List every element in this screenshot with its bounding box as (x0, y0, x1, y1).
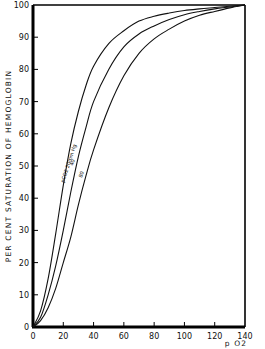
y-tick-label: 60 (19, 130, 29, 139)
y-tick-label: 40 (19, 194, 29, 203)
x-tick-label: 100 (177, 332, 192, 341)
x-tick-label: 20 (58, 332, 68, 341)
x-tick-label: 80 (149, 332, 159, 341)
x-tick-label: 0 (30, 332, 35, 341)
oxygen-dissociation-chart: 0102030405060708090100020406080100120140… (0, 0, 265, 349)
curve-label-2: 40 (68, 158, 76, 166)
y-tick-label: 90 (19, 33, 29, 42)
x-tick-label: 120 (207, 332, 222, 341)
x-tick-label: 40 (88, 332, 98, 341)
y-tick-label: 80 (19, 65, 29, 74)
y-tick-label: 70 (19, 98, 29, 107)
y-tick-label: 20 (19, 259, 29, 268)
y-tick-label: 30 (19, 226, 29, 235)
y-tick-label: 100 (14, 1, 29, 10)
y-tick-label: 0 (24, 323, 29, 332)
y-tick-label: 10 (19, 291, 29, 300)
curve-labels: pCO2 20mm Hg4080 (59, 143, 85, 183)
x-axis-title: p O2 (225, 339, 248, 348)
curve-label-3: 80 (77, 170, 85, 178)
y-axis-title: PER CENT SATURATION OF HEMOGLOBIN (4, 70, 13, 263)
x-tick-label: 60 (119, 332, 129, 341)
y-tick-label: 50 (19, 162, 29, 171)
